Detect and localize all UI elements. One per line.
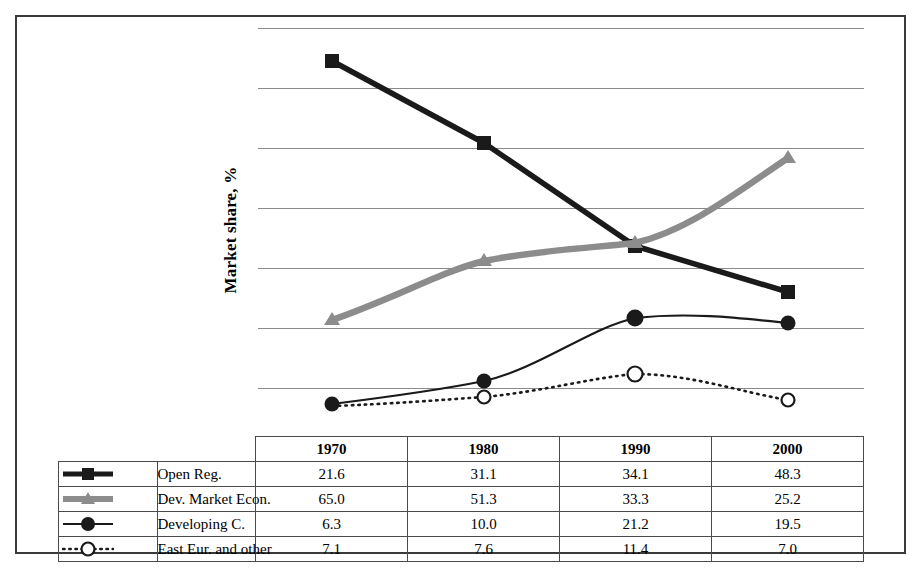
marker-open-circle-2000: [782, 394, 795, 407]
column-header-1980: 1980: [408, 437, 560, 462]
table-row: East Eur. and other 7.1 7.6 11.4 7.0: [59, 537, 864, 562]
table-row: Developing C. 6.3 10.0 21.2 19.5: [59, 512, 864, 537]
marker-circle-1990: [627, 310, 644, 327]
marker-square-1980: [477, 136, 491, 150]
legend-key-dev-market-econ: [59, 487, 158, 512]
marker-circle-2000: [781, 316, 796, 331]
cell-open-reg-1990: 34.1: [560, 462, 712, 487]
marker-square-1970: [325, 54, 339, 68]
line-square-key-icon: [59, 463, 117, 485]
series-path-dark: [332, 61, 788, 292]
column-header-2000: 2000: [712, 437, 864, 462]
table-row: Open Reg. 21.6 31.1 34.1 48.3: [59, 462, 864, 487]
header-key-spacer: [59, 437, 158, 462]
legend-label-dev-market-econ: Dev. Market Econ.: [157, 487, 256, 512]
legend-label-developing-c: Developing C.: [157, 512, 256, 537]
cell-open-reg-1970: 21.6: [256, 462, 408, 487]
plot-region: Market share, %: [0, 0, 924, 440]
series-line-dotted-open-circles: [332, 367, 795, 407]
cell-dev-market-2000: 25.2: [712, 487, 864, 512]
series-path-dotted: [332, 374, 788, 406]
marker-triangle-2000: [780, 150, 796, 163]
marker-circle-1970: [325, 397, 340, 412]
cell-developing-1970: 6.3: [256, 512, 408, 537]
series-line-gray-triangles: [324, 150, 796, 325]
cell-dev-market-1970: 65.0: [256, 487, 408, 512]
cell-east-eur-2000: 7.0: [712, 537, 864, 562]
header-name-spacer: [157, 437, 256, 462]
cell-developing-2000: 19.5: [712, 512, 864, 537]
data-table: 1970 1980 1990 2000 Open Reg. 21.6: [58, 436, 864, 562]
cell-open-reg-2000: 48.3: [712, 462, 864, 487]
table-header-row: 1970 1980 1990 2000: [59, 437, 864, 462]
cell-developing-1990: 21.2: [560, 512, 712, 537]
legend-key-east-eur: [59, 537, 158, 562]
marker-open-circle-1990: [628, 367, 643, 382]
column-header-1970: 1970: [256, 437, 408, 462]
series-line-dark-squares: [325, 54, 795, 299]
marker-open-circle-1980: [478, 391, 491, 404]
series-path-circles: [332, 315, 788, 404]
cell-east-eur-1990: 11.4: [560, 537, 712, 562]
table-row: Dev. Market Econ. 65.0 51.3 33.3 25.2: [59, 487, 864, 512]
figure-canvas: Market share, %: [0, 0, 924, 570]
series-plot: [0, 0, 924, 440]
cell-developing-1980: 10.0: [408, 512, 560, 537]
legend-label-east-eur: East Eur. and other: [157, 537, 256, 562]
legend-key-open-reg: [59, 462, 158, 487]
line-triangle-key-icon: [59, 488, 117, 510]
series-path-gray: [332, 158, 788, 320]
marker-circle-1980: [477, 374, 492, 389]
marker-square-2000: [781, 285, 795, 299]
cell-east-eur-1970: 7.1: [256, 537, 408, 562]
legend-label-open-reg: Open Reg.: [157, 462, 256, 487]
line-circle-key-icon: [59, 513, 117, 535]
cell-open-reg-1980: 31.1: [408, 462, 560, 487]
legend-data-table: 1970 1980 1990 2000 Open Reg. 21.6: [58, 436, 864, 544]
legend-key-developing-c: [59, 512, 158, 537]
cell-dev-market-1980: 51.3: [408, 487, 560, 512]
line-open-circle-key-icon: [59, 538, 117, 560]
cell-dev-market-1990: 33.3: [560, 487, 712, 512]
column-header-1990: 1990: [560, 437, 712, 462]
series-line-dark-circles: [325, 310, 796, 412]
cell-east-eur-1980: 7.6: [408, 537, 560, 562]
